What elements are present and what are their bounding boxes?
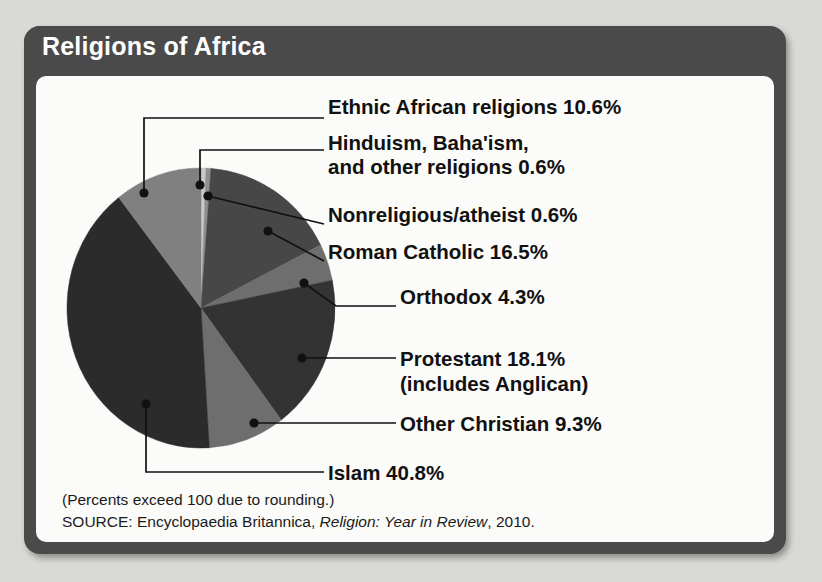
leader-dot-orthodox <box>299 278 308 287</box>
figure-root: Religions of Africa <box>0 0 822 582</box>
source-title: Religion: Year in Review <box>320 513 488 530</box>
leader-dot-other-christian <box>249 418 258 427</box>
label-roman-catholic: Roman Catholic 16.5% <box>328 240 548 264</box>
label-protestant-line1: Protestant 18.1% <box>400 347 565 371</box>
leader-dot-ethnic <box>139 188 148 197</box>
footnote-rounding: (Percents exceed 100 due to rounding.) <box>62 491 334 509</box>
leader-dot-nonreligious <box>203 191 212 200</box>
footnote-source: SOURCE: Encyclopaedia Britannica, Religi… <box>62 513 535 531</box>
label-other-christian: Other Christian 9.3% <box>400 412 602 436</box>
label-protestant-line2: (includes Anglican) <box>400 372 588 396</box>
leader-dot-protestant <box>297 353 306 362</box>
label-ethnic-african: Ethnic African religions 10.6% <box>328 95 621 119</box>
leader-dot-roman-catholic <box>263 226 272 235</box>
source-prefix: SOURCE: Encyclopaedia Britannica, <box>62 513 320 530</box>
label-orthodox: Orthodox 4.3% <box>400 285 545 309</box>
label-hinduism-line2: and other religions 0.6% <box>328 155 565 179</box>
label-nonreligious: Nonreligious/atheist 0.6% <box>328 203 577 227</box>
source-suffix: , 2010. <box>487 513 534 530</box>
leader-dot-islam <box>141 399 150 408</box>
label-hinduism-line1: Hinduism, Baha'ism, <box>328 131 529 155</box>
leader-dot-hinduism <box>195 180 204 189</box>
page-title: Religions of Africa <box>42 32 266 61</box>
label-islam: Islam 40.8% <box>328 461 444 485</box>
pie-slice-group <box>67 168 335 448</box>
